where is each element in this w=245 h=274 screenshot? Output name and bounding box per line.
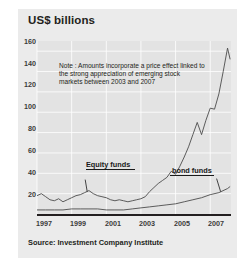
y-tick-20: 20 xyxy=(12,190,36,199)
x-tick-2001: 2001 xyxy=(96,219,130,228)
series-line-bond-funds xyxy=(37,187,230,210)
source-caption: Source: Investment Company Institute xyxy=(28,238,163,247)
x-tick-1997: 1997 xyxy=(27,219,61,228)
leader-line-bond xyxy=(217,179,221,192)
y-tick-140: 140 xyxy=(12,59,36,68)
x-tick-2005: 2005 xyxy=(165,219,199,228)
x-tick-2007: 2007 xyxy=(199,219,233,228)
y-tick-120: 120 xyxy=(12,80,36,89)
y-tick-80: 80 xyxy=(12,124,36,133)
x-tick-1999: 1999 xyxy=(61,219,95,228)
page-title: US$ billions xyxy=(28,14,95,26)
y-tick-160: 160 xyxy=(12,37,36,46)
chart-note: Note : Amounts incorporate a price effec… xyxy=(59,62,205,87)
y-tick-100: 100 xyxy=(12,102,36,111)
x-tick-2003: 2003 xyxy=(130,219,164,228)
figure-root: Sciences Po / CERI et Atelier de cartogr… xyxy=(0,0,245,274)
y-tick-60: 60 xyxy=(12,146,36,155)
x-axis-line xyxy=(37,214,231,216)
y-tick-40: 40 xyxy=(12,168,36,177)
series-label-underline-bond xyxy=(170,175,214,176)
series-label-bond-funds: bond funds xyxy=(172,166,212,175)
leader-line-equity xyxy=(85,180,87,192)
series-label-underline-equity xyxy=(86,169,135,170)
series-label-equity-funds: Equity funds xyxy=(86,160,130,169)
